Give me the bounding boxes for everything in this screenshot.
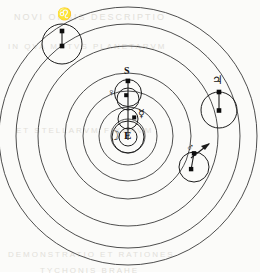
- venus-symbol-icon: ♀: [107, 87, 115, 98]
- earth-label: E: [124, 130, 131, 141]
- saturn-marker-inner: [60, 44, 65, 49]
- epicycles: [42, 24, 237, 182]
- sun-label: S: [124, 66, 130, 76]
- jupiter-marker-outer: [217, 90, 222, 95]
- jupiter-symbol-icon: ♃: [212, 74, 223, 86]
- sun-marker: [126, 79, 131, 84]
- moon-symbol-icon: ☽: [109, 129, 121, 142]
- jupiter-marker-inner: [217, 108, 222, 113]
- saturn-symbol-icon: ♌: [57, 8, 72, 20]
- mars-symbol-icon: ♂: [186, 142, 194, 153]
- venus-marker: [124, 93, 128, 97]
- connector-lines: [62, 31, 219, 170]
- mercury-symbol-icon: ☿: [138, 108, 145, 119]
- mercury-marker: [132, 115, 136, 119]
- saturn-marker-outer: [60, 29, 65, 34]
- mars-epicycle: [179, 152, 209, 182]
- body-markers: [60, 29, 222, 172]
- mars-marker-inner: [189, 167, 193, 171]
